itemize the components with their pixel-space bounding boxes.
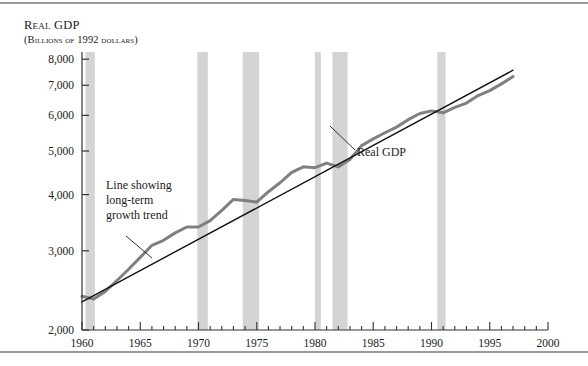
y-axis-tick-label: 7,000 <box>48 79 74 92</box>
y-axis-tick-label: 3,000 <box>48 245 74 258</box>
y-axis-tick-label: 6,000 <box>48 109 74 122</box>
x-axis-tick-label: 1990 <box>420 337 443 349</box>
y-axis-tick-label: 4,000 <box>48 189 74 202</box>
recession-band <box>437 52 445 330</box>
recession-band <box>85 52 94 330</box>
y-axis-tick-label: 8,000 <box>48 53 74 66</box>
figure-real-gdp: Real GDP (Billions of 1992 dollars) 2,00… <box>0 0 588 366</box>
x-axis-labels-group: 196019651970197519801985199019952000 <box>71 337 560 349</box>
recession-band <box>315 52 321 330</box>
y-axis-tick-label: 2,000 <box>48 324 74 337</box>
trend-annotation-line: long-term <box>106 193 154 207</box>
x-axis-tick-label: 1970 <box>187 337 210 349</box>
x-axis-tick-label: 1960 <box>71 337 94 349</box>
recession-band <box>197 52 207 330</box>
y-axis-labels-group: 2,0003,0004,0005,0006,0007,0008,000 <box>48 53 74 337</box>
x-axis-tick-label: 1985 <box>362 337 385 349</box>
series-annotation-label: Real GDP <box>357 145 406 159</box>
trend-annotation-line: Line showing <box>106 178 172 192</box>
recession-band <box>243 52 259 330</box>
x-axis-tick-label: 2000 <box>537 337 560 349</box>
y-axis-tick-label: 5,000 <box>48 145 74 158</box>
chart-canvas: 2,0003,0004,0005,0006,0007,0008,000 1960… <box>0 0 588 366</box>
x-axis-tick-label: 1980 <box>304 337 327 349</box>
x-axis-tick-label: 1975 <box>245 337 268 349</box>
recession-band <box>332 52 347 330</box>
trend-annotation-leader-line <box>126 236 152 258</box>
x-axis-tick-label: 1965 <box>129 337 152 349</box>
trend-annotation-line: growth trend <box>106 208 168 222</box>
x-axis-tick-label: 1995 <box>478 337 501 349</box>
